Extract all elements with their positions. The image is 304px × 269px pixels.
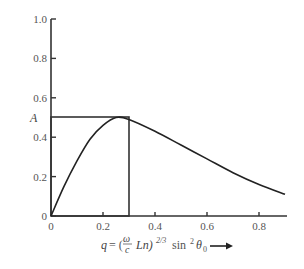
y-axis-label: A bbox=[29, 111, 38, 125]
x-axis: 00.20.40.60.8 bbox=[48, 212, 287, 232]
y-tick-label: 1.0 bbox=[33, 13, 47, 25]
svg-text:2/3: 2/3 bbox=[156, 236, 166, 245]
y-tick-label: 0.8 bbox=[33, 52, 47, 64]
x-tick-label: 0 bbox=[48, 220, 54, 232]
svg-text:2: 2 bbox=[190, 237, 194, 246]
step-box bbox=[51, 117, 129, 216]
x-tick-label: 0.8 bbox=[252, 220, 266, 232]
svg-text:c: c bbox=[125, 244, 130, 255]
x-tick-label: 0.6 bbox=[200, 220, 214, 232]
y-tick-label: 0.2 bbox=[33, 171, 47, 183]
x-tick-label: 0.2 bbox=[96, 220, 110, 232]
svg-text:= (: = ( bbox=[109, 238, 123, 252]
x-tick-label: 0.4 bbox=[148, 220, 162, 232]
y-tick-label: 0 bbox=[42, 210, 48, 222]
data-curve bbox=[51, 117, 285, 216]
arrow-right-icon bbox=[210, 243, 233, 250]
y-tick-label: 0.6 bbox=[33, 92, 47, 104]
svg-text:q: q bbox=[101, 238, 107, 252]
x-axis-label: q = ( ω c Ln) 2/3 sin 2 θ 0 bbox=[101, 233, 207, 255]
svg-text:ω: ω bbox=[123, 233, 130, 244]
svg-text:sin: sin bbox=[172, 238, 186, 252]
chart: 00.20.40.60.81.0 00.20.40.60.8 A q = ( ω… bbox=[0, 0, 304, 269]
y-tick-label: 0.4 bbox=[33, 131, 47, 143]
svg-text:0: 0 bbox=[203, 245, 207, 254]
svg-text:θ: θ bbox=[196, 238, 202, 252]
svg-text:Ln): Ln) bbox=[135, 238, 153, 252]
